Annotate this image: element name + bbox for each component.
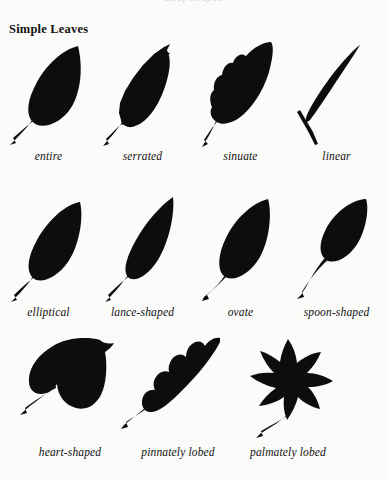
leaf-label: spoon-shaped	[288, 306, 385, 318]
leaf-ovate-silhouette	[192, 196, 289, 304]
leaf-spoon-shaped-silhouette	[288, 196, 385, 304]
leaf-item-linear: linear	[288, 40, 385, 173]
page-title: Simple Leaves	[9, 22, 88, 37]
leaf-label: ovate	[192, 306, 289, 318]
leaf-item-entire: entire	[0, 40, 97, 173]
leaf-row-3: heart-shaped pinnately lobed palmately l…	[0, 336, 388, 469]
leaf-item-heart-shaped: heart-shaped	[8, 336, 132, 469]
leaf-pinnately-lobed-silhouette	[116, 336, 240, 444]
leaf-shapes-plate: Leaf Shapes Simple Leaves entire serrate…	[0, 0, 388, 480]
leaf-label: elliptical	[0, 306, 97, 318]
leaf-lance-shaped-silhouette	[94, 196, 191, 304]
leaf-palmately-lobed-silhouette	[226, 336, 350, 444]
leaf-label: entire	[0, 150, 97, 162]
leaf-serrated-silhouette	[94, 40, 191, 148]
leaf-sinuate-silhouette	[192, 40, 289, 148]
leaf-heart-shaped-silhouette	[8, 336, 132, 444]
leaf-item-palmately-lobed: palmately lobed	[226, 336, 350, 469]
leaf-label: palmately lobed	[226, 446, 350, 458]
leaf-entire-silhouette	[0, 40, 97, 148]
leaf-item-lance-shaped: lance-shaped	[94, 196, 191, 329]
leaf-label: lance-shaped	[94, 306, 191, 318]
leaf-elliptical-silhouette	[0, 196, 97, 304]
leaf-linear-silhouette	[288, 40, 385, 148]
running-head-cutoff: Leaf Shapes	[0, 0, 388, 3]
leaf-item-sinuate: sinuate	[192, 40, 289, 173]
leaf-label: pinnately lobed	[116, 446, 240, 458]
leaf-row-1: entire serrated sinuate	[0, 40, 388, 173]
leaf-item-ovate: ovate	[192, 196, 289, 329]
leaf-item-spoon-shaped: spoon-shaped	[288, 196, 385, 329]
leaf-item-elliptical: elliptical	[0, 196, 97, 329]
leaf-label: sinuate	[192, 150, 289, 162]
leaf-item-serrated: serrated	[94, 40, 191, 173]
leaf-item-pinnately-lobed: pinnately lobed	[116, 336, 240, 469]
leaf-label: heart-shaped	[8, 446, 132, 458]
leaf-row-2: elliptical lance-shaped ovate	[0, 196, 388, 329]
leaf-label: serrated	[94, 150, 191, 162]
leaf-label: linear	[288, 150, 385, 162]
